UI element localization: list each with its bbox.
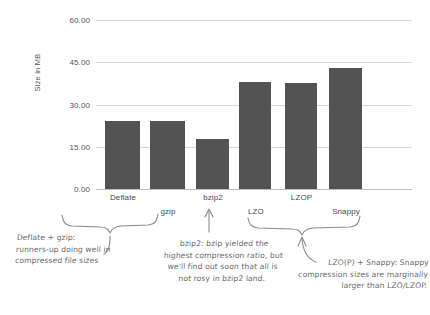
annotation-bzip2-line-1: bzip2: bzip yielded the <box>148 238 301 250</box>
x-label-gzip: gzip <box>142 207 194 216</box>
gridline-60 <box>96 20 412 21</box>
bar-lzop[interactable] <box>285 83 317 189</box>
bar-chart: Size in MB 60.00 45.00 30.00 15.00 0.00 … <box>0 0 430 200</box>
annotation-lzo-snappy-line-2: compression sizes are marginally <box>288 269 429 281</box>
y-tick-label-15: 15.00 <box>46 143 90 152</box>
annotation-lzo-snappy-line-1: LZO(P) + Snappy: Snappy <box>288 257 429 269</box>
annotation-bzip2-line-2: highest compression ratio, but <box>147 250 300 262</box>
bar-gzip[interactable] <box>150 121 185 189</box>
x-label-bzip2: bzip2 <box>187 193 239 202</box>
annotation-lzo-snappy: LZO(P) + Snappy: Snappy compression size… <box>287 257 429 292</box>
annotation-bzip2: bzip2: bzip yielded the highest compress… <box>145 238 300 284</box>
x-label-lzop: LZOP <box>276 193 327 202</box>
annotation-deflate-gzip: Deflate + gzip: runners-up doing well in… <box>15 232 157 267</box>
brace-deflate-gzip <box>62 214 158 233</box>
chart-page: Size in MB 60.00 45.00 30.00 15.00 0.00 … <box>0 0 430 315</box>
gridline-0 <box>96 189 412 190</box>
bar-lzo[interactable] <box>239 82 271 189</box>
bar-bzip2[interactable] <box>196 139 229 189</box>
annotation-bzip2-line-3: we'll find out soon that all is <box>146 261 299 273</box>
annotation-deflate-gzip-line-1: Deflate + gzip: <box>16 232 157 244</box>
y-tick-label-0: 0.00 <box>46 185 90 194</box>
arrow-bzip2-head <box>205 209 213 217</box>
y-tick-label-60: 60.00 <box>46 16 90 25</box>
annotation-bzip2-line-4: not rosy in bzip2 land. <box>145 273 298 285</box>
x-label-lzo: LZO <box>231 207 281 216</box>
annotation-deflate-gzip-line-3: compressed file sizes <box>15 255 156 267</box>
x-label-deflate: Deflate <box>97 193 149 202</box>
bar-deflate[interactable] <box>105 121 140 189</box>
y-tick-label-45: 45.00 <box>46 58 90 67</box>
bar-snappy[interactable] <box>329 68 362 189</box>
annotation-lzo-snappy-line-3: larger than LZO/LZOP. <box>287 280 428 292</box>
brace-lzo-snappy <box>248 216 360 235</box>
gridline-45 <box>96 62 412 63</box>
annotation-deflate-gzip-line-2: runners-up doing well in <box>16 244 157 256</box>
y-axis-title: Size in MB <box>33 38 42 108</box>
y-tick-label-30: 30.00 <box>46 101 90 110</box>
x-label-snappy: Snappy <box>320 207 372 216</box>
